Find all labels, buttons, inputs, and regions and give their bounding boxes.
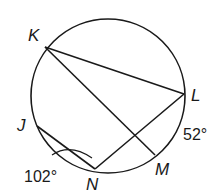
label-K: K [28, 26, 40, 45]
chord-KM [45, 47, 155, 155]
chord-LN [95, 94, 184, 169]
label-J: J [16, 116, 26, 135]
circle-diagram: K L J N M 52° 102° [0, 0, 216, 192]
arc-label-JN: 102° [24, 168, 57, 185]
chord-JN [37, 126, 95, 169]
chord-KL [45, 47, 184, 94]
label-N: N [86, 175, 99, 192]
label-L: L [191, 86, 200, 105]
circle [31, 19, 185, 173]
label-M: M [155, 160, 170, 179]
arc-label-LM: 52° [183, 126, 207, 143]
